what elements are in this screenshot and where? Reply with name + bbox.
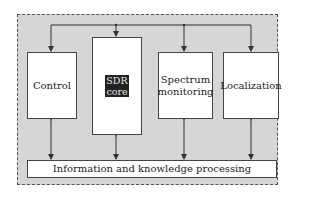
localization-box: Localization bbox=[223, 52, 279, 119]
control-box: Control bbox=[27, 52, 77, 119]
info-processing-bar: Information and knowledge processing bbox=[27, 160, 277, 178]
spectrum-monitoring-label: Spectrum monitoring bbox=[158, 74, 214, 98]
sdr-core-box: SDR core bbox=[92, 37, 142, 135]
sdr-core-label: SDR core bbox=[105, 75, 128, 97]
localization-label: Localization bbox=[220, 80, 282, 92]
info-processing-label: Information and knowledge processing bbox=[53, 163, 251, 175]
spectrum-monitoring-box: Spectrum monitoring bbox=[158, 52, 213, 119]
control-label: Control bbox=[33, 80, 71, 92]
